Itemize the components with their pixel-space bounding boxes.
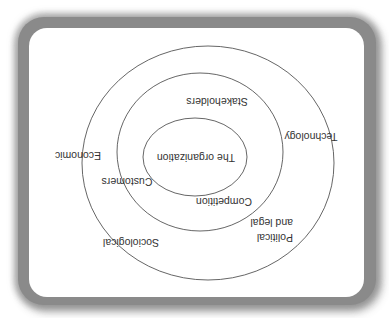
- label-stakeholders: Stakeholders: [186, 96, 247, 108]
- label-economic: Economic: [55, 150, 101, 162]
- label-sociological: Sociological: [103, 237, 159, 249]
- label-political-line2: and legal: [250, 217, 293, 229]
- label-organization: The organization: [157, 152, 235, 164]
- label-customers: Customers: [102, 176, 153, 188]
- label-technology: Technology: [284, 131, 338, 143]
- label-political-line1: Political: [257, 232, 293, 244]
- environment-diagram: The organization Stakeholders Customers …: [0, 0, 389, 318]
- label-competition: Competition: [196, 196, 252, 208]
- label-political-legal: Political and legal: [250, 217, 293, 244]
